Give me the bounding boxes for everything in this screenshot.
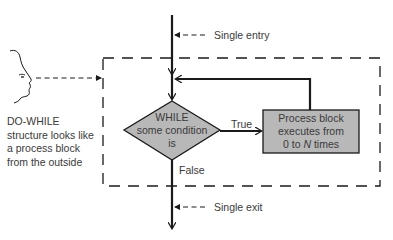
- false-label: False: [179, 164, 205, 176]
- caption-line-2: structure looks like: [7, 129, 94, 143]
- process-text: Process block executes from 0 to N times: [263, 112, 359, 151]
- face-icon: [10, 50, 31, 103]
- process-line-1: Process block: [263, 112, 359, 125]
- process-line-2: executes from: [263, 125, 359, 138]
- true-label: True: [231, 118, 252, 130]
- process-line-3-prefix: 0 to: [283, 138, 303, 150]
- process-line-3-var: N: [303, 138, 311, 150]
- decision-text: WHILE some condition is: [124, 111, 220, 150]
- caption-line-1: DO-WHILE: [7, 115, 94, 129]
- process-line-3-suffix: times: [311, 138, 339, 150]
- caption-line-4: from the outside: [7, 156, 94, 170]
- decision-line-3: is: [124, 137, 220, 150]
- decision-line-1: WHILE: [124, 111, 220, 124]
- caption: DO-WHILE structure looks like a process …: [7, 115, 94, 169]
- single-exit-label: Single exit: [214, 201, 262, 213]
- loop-back-line: [176, 79, 310, 110]
- decision-line-2: some condition: [124, 124, 220, 137]
- process-line-3: 0 to N times: [263, 138, 359, 151]
- single-entry-label: Single entry: [214, 29, 269, 41]
- caption-line-3: a process block: [7, 142, 94, 156]
